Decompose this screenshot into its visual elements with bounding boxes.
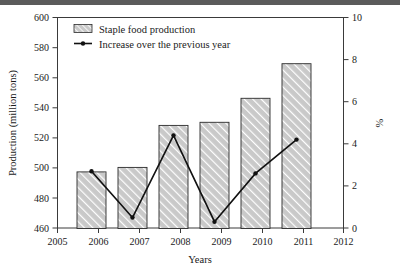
y-tick-label-0: 460 [34, 223, 49, 234]
x-axis-title: Years [188, 254, 211, 265]
bar-2008 [159, 125, 188, 228]
x-tick-label-0: 2005 [48, 236, 68, 247]
line-point-2006 [89, 169, 93, 173]
y-tick-label-3: 520 [34, 132, 49, 143]
y-tick-label-1: 480 [34, 193, 49, 204]
y-tick-label-5: 560 [34, 72, 49, 83]
y-tick-label-2: 500 [34, 162, 49, 173]
x-tick-label-3: 2008 [171, 236, 191, 247]
x-tick-label-7: 2012 [334, 236, 354, 247]
x-tick-label-2: 2007 [130, 236, 150, 247]
y2-tick-label-2: 4 [352, 138, 357, 149]
x-tick-label-4: 2009 [212, 236, 232, 247]
bar-2011 [282, 64, 311, 229]
legend: Staple food production Increase over the… [74, 24, 231, 50]
bar-series-staple-food-production [77, 64, 311, 229]
hatched-bar-swatch-icon [74, 25, 92, 33]
x-tick-label-1: 2006 [89, 236, 109, 247]
y-axis-right: 0 2 4 6 8 10 [344, 12, 363, 234]
x-tick-label-5: 2010 [253, 236, 273, 247]
y-tick-label-6: 580 [34, 42, 49, 53]
line-point-2009 [212, 220, 216, 224]
chart-screenshot: 460 480 500 520 540 560 580 600 0 2 4 6 … [0, 0, 400, 280]
y2-tick-label-4: 8 [352, 54, 357, 65]
legend-marker-dot-icon [81, 41, 85, 45]
y-tick-label-7: 600 [34, 12, 49, 23]
combo-chart: 460 480 500 520 540 560 580 600 0 2 4 6 … [0, 0, 400, 280]
line-point-2008 [171, 133, 175, 137]
bar-2009 [200, 122, 229, 228]
line-point-2010 [253, 171, 257, 175]
y2-tick-label-1: 2 [352, 180, 357, 191]
legend-label-1: Increase over the previous year [99, 39, 231, 50]
x-tick-label-6: 2011 [294, 236, 314, 247]
legend-item-staple-food-production: Staple food production [74, 24, 196, 35]
y-tick-label-4: 540 [34, 102, 49, 113]
bar-2006 [77, 172, 106, 229]
y-axis-title: Production (million tons) [7, 69, 19, 176]
y2-tick-label-3: 6 [352, 96, 357, 107]
y2-tick-label-0: 0 [352, 223, 357, 234]
legend-label-0: Staple food production [99, 24, 196, 35]
legend-item-increase-over-previous-year: Increase over the previous year [74, 39, 231, 50]
y-axis-left: 460 480 500 520 540 560 580 600 [34, 12, 58, 234]
x-axis: 2005 2006 2007 2008 2009 2010 2011 2012 [48, 228, 354, 247]
y2-tick-label-5: 10 [352, 12, 362, 23]
bar-2010 [241, 98, 270, 228]
line-point-2011 [294, 137, 298, 141]
line-point-2007 [130, 215, 134, 219]
y2-axis-title: % [374, 118, 385, 127]
